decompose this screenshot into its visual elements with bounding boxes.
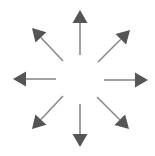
arrow-shaft xyxy=(98,39,121,62)
arrow-right-icon xyxy=(104,73,148,88)
arrow-shaft xyxy=(41,37,63,61)
arrow-shaft xyxy=(41,96,63,120)
arrow-up-icon xyxy=(73,10,88,55)
radial-arrows-diagram xyxy=(0,0,155,156)
arrow-down-icon xyxy=(73,104,88,147)
arrow-left-icon xyxy=(13,72,56,87)
arrow-up-right-icon xyxy=(98,30,130,62)
arrow-down-left-icon xyxy=(32,96,63,129)
arrow-head xyxy=(73,134,88,147)
arrow-shaft xyxy=(97,97,120,120)
arrow-head xyxy=(73,10,88,23)
arrow-head xyxy=(13,72,26,87)
arrow-head xyxy=(135,73,148,88)
arrow-down-right-icon xyxy=(97,97,129,129)
arrow-up-left-icon xyxy=(32,28,63,61)
